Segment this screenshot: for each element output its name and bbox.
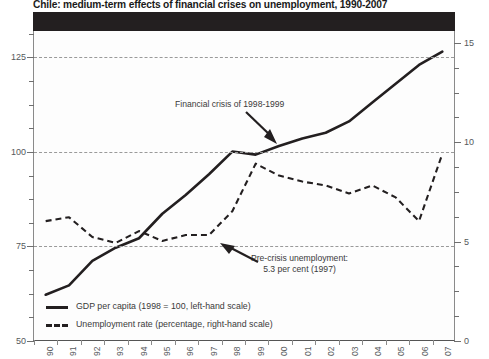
x-axis-label: 99 xyxy=(256,347,266,356)
header-bar xyxy=(33,12,455,31)
y-axis-tick-left xyxy=(27,246,34,247)
x-axis-tick xyxy=(409,340,410,345)
x-axis-tick xyxy=(104,340,105,345)
chart-title: Chile: medium-term effects of financial … xyxy=(33,0,473,10)
y-axis-minor-tick-left xyxy=(29,81,34,82)
y-axis-minor-tick-right xyxy=(454,117,459,118)
x-axis-label: 02 xyxy=(326,347,336,356)
legend-swatch-dashed-line-icon xyxy=(46,324,68,327)
y-axis-tick-right xyxy=(454,341,461,342)
x-axis-label: 07 xyxy=(443,347,453,356)
x-axis-label: 94 xyxy=(139,347,149,356)
y-axis-label-right: 5 xyxy=(464,237,488,247)
y-axis-tick-left xyxy=(27,152,34,153)
x-axis-label: 04 xyxy=(373,347,383,356)
y-axis-minor-tick-left xyxy=(29,34,34,35)
y-axis-tick-left xyxy=(27,341,34,342)
x-axis-tick xyxy=(268,340,269,345)
x-axis-tick xyxy=(198,340,199,345)
x-axis-label: 95 xyxy=(162,347,172,356)
y-axis-minor-tick-right xyxy=(454,68,459,69)
annotation-pre-crisis-line-1: Pre-crisis unemployment: xyxy=(251,253,348,264)
y-axis-minor-tick-left xyxy=(29,294,34,295)
x-axis-tick xyxy=(433,340,434,345)
x-axis-label: 92 xyxy=(92,347,102,356)
y-axis-minor-tick-right xyxy=(454,316,459,317)
series-line-gdp-per-capita xyxy=(46,52,443,295)
y-axis-minor-tick-left xyxy=(29,270,34,271)
x-axis-label: 91 xyxy=(68,347,78,356)
x-axis-label: 01 xyxy=(303,347,313,356)
legend-label-gdp: GDP per capita (1998 = 100, left-hand sc… xyxy=(76,301,251,311)
x-axis-label: 06 xyxy=(420,347,430,356)
y-axis-tick-right xyxy=(454,142,461,143)
y-axis-label-left: 75 xyxy=(2,241,26,251)
x-axis-label: 93 xyxy=(115,347,125,356)
annotation-pre-crisis-unemployment: Pre-crisis unemployment: 5.3 per cent (1… xyxy=(251,253,348,275)
y-axis-minor-tick-left xyxy=(29,128,34,129)
x-axis-label: 98 xyxy=(232,347,242,356)
y-axis-label-right: 15 xyxy=(464,38,488,48)
annotation-pre-crisis-line-2: 5.3 per cent (1997) xyxy=(251,264,348,275)
y-axis-tick-right xyxy=(454,242,461,243)
y-axis-minor-tick-left xyxy=(29,176,34,177)
x-axis-tick xyxy=(222,340,223,345)
y-axis-minor-tick-left xyxy=(29,223,34,224)
x-axis-tick xyxy=(292,340,293,345)
series-layer xyxy=(34,31,454,340)
y-axis-tick-left xyxy=(27,57,34,58)
x-axis-tick xyxy=(339,340,340,345)
x-axis-tick xyxy=(81,340,82,345)
y-axis-minor-tick-left xyxy=(29,199,34,200)
series-line-unemployment-rate xyxy=(46,154,443,243)
x-axis-label: 05 xyxy=(396,347,406,356)
chart-figure: Chile: medium-term effects of financial … xyxy=(0,0,489,359)
x-axis-label: 90 xyxy=(45,347,55,356)
y-axis-minor-tick-right xyxy=(454,192,459,193)
annotation-financial-crisis-line-1: Financial crisis of 1998-1999 xyxy=(175,99,284,110)
x-axis-tick xyxy=(34,340,35,345)
y-axis-label-left: 50 xyxy=(2,336,26,346)
x-axis-tick xyxy=(245,340,246,345)
annotation-financial-crisis: Financial crisis of 1998-1999 xyxy=(175,99,284,110)
y-axis-minor-tick-right xyxy=(454,217,459,218)
y-axis-minor-tick-right xyxy=(454,266,459,267)
y-axis-tick-right xyxy=(454,43,461,44)
y-axis-label-left: 125 xyxy=(2,52,26,62)
legend-label-unemployment: Unemployment rate (percentage, right-han… xyxy=(76,319,273,329)
x-axis-label: 97 xyxy=(209,347,219,356)
gridline xyxy=(34,57,454,58)
x-axis-label: 00 xyxy=(279,347,289,356)
y-axis-minor-tick-left xyxy=(29,105,34,106)
x-axis-tick xyxy=(175,340,176,345)
plot-area xyxy=(33,31,455,341)
x-axis-tick xyxy=(128,340,129,345)
x-axis-label: 03 xyxy=(350,347,360,356)
y-axis-label-right: 10 xyxy=(464,137,488,147)
gridline xyxy=(34,246,454,247)
x-axis-tick xyxy=(57,340,58,345)
y-axis-minor-tick-left xyxy=(29,317,34,318)
x-axis-label: 96 xyxy=(185,347,195,356)
x-axis-tick xyxy=(151,340,152,345)
y-axis-minor-tick-right xyxy=(454,291,459,292)
x-axis-tick xyxy=(362,340,363,345)
x-axis-tick xyxy=(315,340,316,345)
y-axis-label-left: 100 xyxy=(2,147,26,157)
legend-swatch-solid-line-icon xyxy=(46,306,68,309)
y-axis-label-right: 0 xyxy=(464,336,488,346)
y-axis-minor-tick-right xyxy=(454,93,459,94)
y-axis-minor-tick-right xyxy=(454,167,459,168)
x-axis-tick xyxy=(386,340,387,345)
gridline xyxy=(34,152,454,153)
